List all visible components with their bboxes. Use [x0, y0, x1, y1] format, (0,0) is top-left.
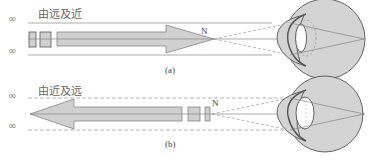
point-label-n-b: N [212, 99, 219, 108]
eye-a [277, 0, 365, 79]
direction-label-a: 由远及近 [38, 9, 82, 20]
accommodation-diagram [0, 0, 373, 160]
point-label-n-a: N [201, 27, 208, 36]
object-box-2 [40, 32, 51, 47]
infinity-bottom-a: ∞ [8, 46, 16, 56]
direction-label-b: 由近及远 [38, 86, 82, 97]
caption-b: (b) [165, 140, 176, 149]
caption-a: (a) [165, 66, 175, 75]
infinity-top-b: ∞ [8, 91, 16, 101]
infinity-bottom-b: ∞ [8, 121, 16, 131]
infinity-top-a: ∞ [8, 14, 16, 24]
object-box-1 [29, 32, 36, 47]
eye-b [277, 76, 364, 152]
